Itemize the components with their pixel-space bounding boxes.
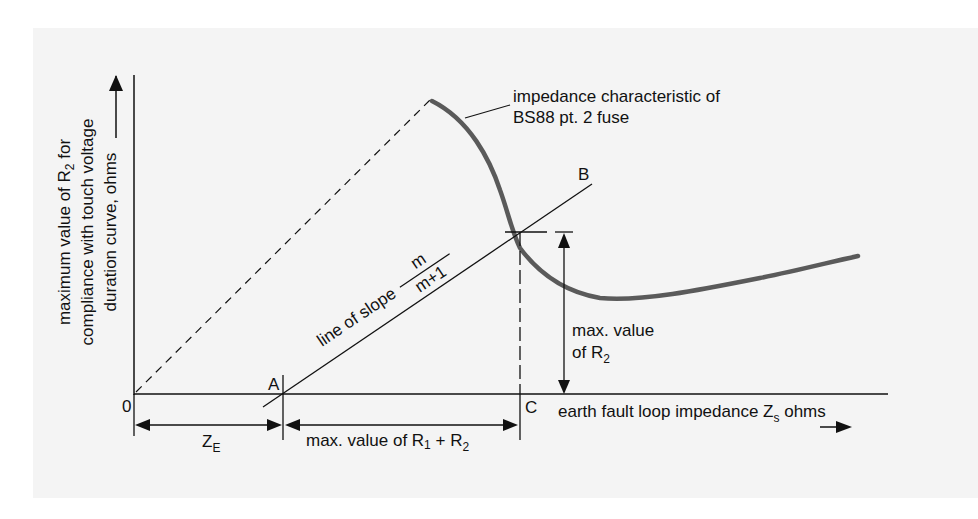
ze-arrow-left-icon bbox=[135, 419, 150, 431]
ze-label: ZE bbox=[202, 432, 220, 455]
svg-text:duration curve, ohms: duration curve, ohms bbox=[101, 153, 120, 312]
r2-label-line2: of R2 bbox=[572, 343, 610, 366]
svg-text:compliance with touch voltage: compliance with touch voltage bbox=[78, 119, 97, 346]
origin-label: 0 bbox=[122, 397, 131, 416]
line-ab bbox=[263, 184, 592, 407]
curve-label-line2: BS88 pt. 2 fuse bbox=[513, 108, 629, 127]
r1r2-arrow-left-icon bbox=[285, 419, 300, 431]
point-b-label: B bbox=[578, 165, 589, 184]
ze-arrow-right-icon bbox=[267, 419, 282, 431]
fuse-characteristic-curve bbox=[432, 101, 858, 299]
curve-label-line1: impedance characteristic of bbox=[513, 87, 720, 106]
slope-label: line of slope m m+1 bbox=[307, 236, 461, 358]
point-c-label: C bbox=[525, 398, 537, 417]
r2-arrow-down-icon bbox=[558, 380, 570, 394]
y-axis-label: maximum value of R2 for compliance with … bbox=[55, 119, 120, 346]
impedance-diagram: maximum value of R2 for compliance with … bbox=[0, 0, 978, 519]
r1r2-arrow-right-icon bbox=[503, 419, 518, 431]
r2-arrow-up-icon bbox=[558, 233, 570, 248]
r2-label-line1: max. value bbox=[572, 321, 654, 340]
point-a-label: A bbox=[268, 375, 280, 394]
dashed-line-origin bbox=[136, 100, 430, 392]
curve-label-leader bbox=[465, 105, 510, 118]
x-axis-label: earth fault loop impedance Zs ohms bbox=[558, 402, 826, 425]
r1r2-label: max. value of R1 + R2 bbox=[306, 431, 469, 454]
svg-text:maximum value of R2 for: maximum value of R2 for bbox=[55, 139, 77, 326]
svg-text:line of slope: line of slope bbox=[314, 284, 400, 350]
